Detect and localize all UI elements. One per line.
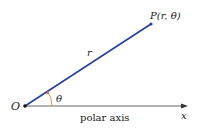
point-p <box>149 22 152 25</box>
polar-axis-caption: polar axis <box>80 112 129 123</box>
point-label: P(r, θ) <box>149 10 181 21</box>
diagram-canvas: O P(r, θ) r θ polar axis x <box>0 0 201 131</box>
radius-ray <box>25 24 151 106</box>
x-axis-label: x <box>181 110 187 121</box>
angle-label: θ <box>56 93 62 104</box>
axis-arrowhead-icon <box>181 104 188 109</box>
origin-label: O <box>11 100 20 113</box>
radius-label: r <box>87 47 93 58</box>
origin-point <box>23 104 27 108</box>
polar-coordinates-diagram: O P(r, θ) r θ polar axis x <box>0 0 201 131</box>
